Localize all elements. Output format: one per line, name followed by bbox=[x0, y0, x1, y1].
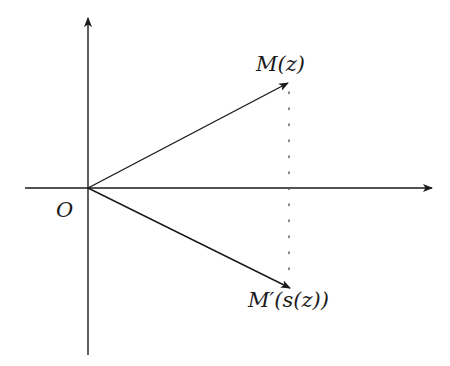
vector-om bbox=[88, 83, 288, 188]
diagram-canvas: M(z) M′(s(z)) O bbox=[0, 0, 450, 366]
origin-label: O bbox=[56, 200, 73, 221]
vector-om-prime bbox=[88, 188, 290, 288]
point-label-m: M(z) bbox=[256, 54, 305, 75]
point-label-m-prime: M′(s(z)) bbox=[248, 290, 329, 311]
diagram-svg bbox=[0, 0, 450, 366]
